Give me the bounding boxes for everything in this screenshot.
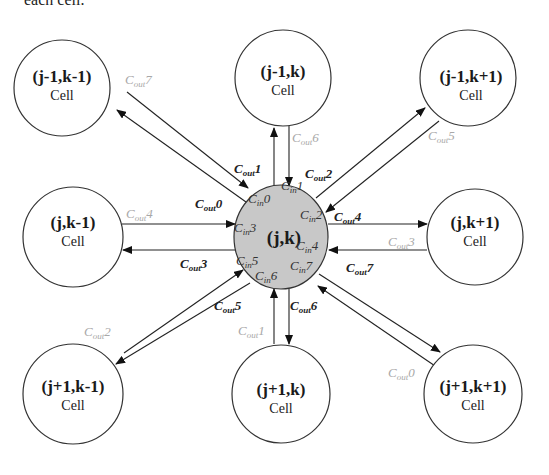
label-neighbor-cout-3: Cout3 (388, 234, 415, 251)
label-cout-7: Cout7 (346, 260, 374, 277)
arrow-top-right-to-center (326, 121, 439, 212)
label-cout-0: Cout0 (195, 196, 223, 213)
label-cout-3: Cout3 (180, 256, 208, 273)
cell-label: Cell (463, 234, 486, 249)
label-neighbor-cout-6: Cout6 (292, 130, 319, 147)
cell-label: Cell (271, 83, 294, 98)
label-neighbor-cout-2: Cout2 (84, 324, 111, 341)
label-neighbor-cout-0: Cout0 (388, 365, 415, 382)
cell-j-1-k: (j-1,k) Cell (235, 30, 331, 126)
cell-coord: (j+1,k+1) (439, 377, 506, 396)
cell-j+1-k+1: (j+1,k+1) Cell (424, 345, 522, 443)
arrow-center-to-bottom-right (319, 274, 440, 352)
cell-label: Cell (459, 88, 482, 103)
label-neighbor-cout-4: Cout4 (126, 206, 153, 223)
label-cout-5: Cout5 (214, 298, 242, 315)
cell-label: Cell (269, 401, 292, 416)
label-cout-4: Cout4 (334, 209, 362, 226)
cell-j-1-k-1: (j-1,k-1) Cell (14, 40, 110, 136)
cell-j-k-1: (j,k-1) Cell (23, 187, 123, 287)
label-cout-1: Cout1 (234, 161, 261, 178)
cell-connectivity-diagram: (j-1,k-1) Cell (j-1,k) Cell (j-1,k+1) Ce… (0, 0, 549, 475)
cell-coord: (j+1,k-1) (41, 377, 104, 396)
arrow-center-to-top-left (117, 110, 246, 202)
arrow-top-left-to-center (127, 92, 248, 188)
cell-coord: (j,k+1) (451, 213, 500, 232)
cell-label: Cell (61, 398, 84, 413)
arrow-center-to-top-right (316, 108, 425, 198)
label-neighbor-cout-1: Cout1 (238, 323, 265, 340)
label-cout-2: Cout2 (305, 166, 333, 183)
cell-coord: (j-1,k+1) (439, 67, 502, 86)
cell-j+1-k-1: (j+1,k-1) Cell (23, 344, 123, 444)
cell-j-k+1: (j,k+1) Cell (427, 189, 523, 285)
label-cin-1: Cin1 (281, 178, 303, 195)
cell-label: Cell (61, 234, 84, 249)
label-neighbor-cout-7: Cout7 (125, 72, 152, 89)
label-neighbor-cout-5: Cout5 (428, 128, 455, 145)
cell-label: Cell (461, 398, 484, 413)
label-cout-6: Cout6 (290, 298, 318, 315)
cell-coord: (j-1,k) (261, 62, 306, 81)
cell-j-1-k+1: (j-1,k+1) Cell (420, 30, 516, 126)
cell-j+1-k: (j+1,k) Cell (232, 345, 330, 443)
cell-coord: (j,k-1) (51, 213, 96, 232)
cell-coord: (j-1,k-1) (32, 67, 91, 86)
cell-label: Cell (50, 88, 73, 103)
arrow-center-to-bottom-left (116, 283, 250, 364)
arrow-bottom-right-to-center (318, 286, 438, 368)
cell-coord: (j+1,k) (257, 380, 306, 399)
